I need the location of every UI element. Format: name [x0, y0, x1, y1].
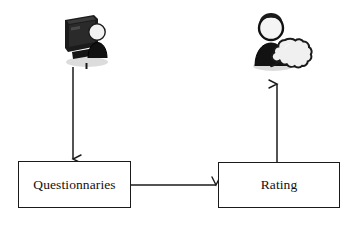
user-with-speech-bubble-icon — [245, 10, 313, 74]
user-at-computer-icon — [58, 8, 114, 70]
node-questionnaries-label: Questionnaries — [33, 178, 115, 192]
node-questionnaries[interactable]: Questionnaries — [18, 161, 131, 208]
node-rating[interactable]: Rating — [218, 162, 340, 208]
diagram-canvas: Questionnaries Rating — [0, 0, 363, 225]
node-rating-label: Rating — [261, 178, 298, 192]
